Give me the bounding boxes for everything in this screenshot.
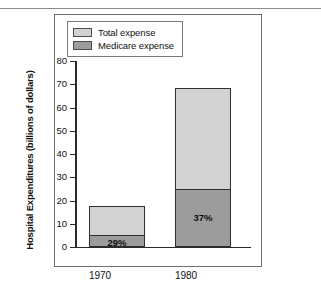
chart-legend: Total expense Medicare expense (67, 21, 183, 57)
y-tick-10: 10 (70, 224, 76, 225)
y-tick-80: 80 (70, 61, 76, 62)
y-axis-title: Hospital Expenditures (billions of dolla… (22, 60, 36, 260)
y-tick-20: 20 (70, 201, 76, 202)
y-tick-label-70: 70 (56, 78, 67, 89)
y-tick-30: 30 (70, 177, 76, 178)
y-axis-title-text: Hospital Expenditures (billions of dolla… (24, 70, 35, 249)
y-tick-label-50: 50 (56, 125, 67, 136)
y-tick-50: 50 (70, 131, 76, 132)
bar-1970-percent-label: 29% (90, 237, 144, 248)
y-tick-label-10: 10 (56, 218, 67, 229)
y-tick-60: 60 (70, 108, 76, 109)
top-divider-rule (0, 8, 321, 9)
y-tick-label-0: 0 (62, 241, 67, 252)
y-tick-label-20: 20 (56, 195, 67, 206)
y-tick-70: 70 (70, 84, 76, 85)
legend-label-total-expense: Total expense (98, 27, 155, 38)
bar-1970-medicare-expense[interactable]: 29% (89, 235, 145, 247)
bar-1980-percent-label: 37% (176, 212, 230, 223)
legend-item-total-expense[interactable]: Total expense (73, 26, 174, 39)
y-tick-label-30: 30 (56, 171, 67, 182)
legend-label-medicare-expense: Medicare expense (98, 40, 174, 51)
x-axis-label-1970: 1970 (72, 270, 128, 281)
chart-figure-frame: 80 70 60 50 40 30 20 10 (54, 14, 262, 267)
y-tick-label-40: 40 (56, 148, 67, 159)
y-tick-40: 40 (70, 154, 76, 155)
legend-item-medicare-expense[interactable]: Medicare expense (73, 39, 174, 52)
y-tick-label-80: 80 (56, 55, 67, 66)
legend-swatch-total-expense-icon (73, 28, 92, 37)
bar-1980-medicare-expense[interactable]: 37% (175, 189, 231, 247)
y-tick-label-60: 60 (56, 102, 67, 113)
legend-swatch-medicare-expense-icon (73, 41, 92, 50)
y-tick-0: 0 (70, 247, 76, 248)
x-axis-label-1980: 1980 (158, 270, 214, 281)
